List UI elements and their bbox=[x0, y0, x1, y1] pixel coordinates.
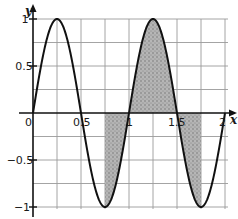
y-tick-neg-0-5: −0.5 bbox=[7, 154, 34, 167]
y-tick-1: 1 bbox=[22, 13, 29, 26]
x-tick-2: 2 bbox=[219, 116, 226, 129]
y-tick-0-5: 0.5 bbox=[15, 60, 33, 73]
x-tick-1: 1 bbox=[126, 116, 133, 129]
x-tick-origin: 0 bbox=[25, 116, 32, 129]
y-tick-neg-1: −1 bbox=[14, 201, 30, 214]
x-tick-0-5: 0.5 bbox=[73, 116, 91, 129]
x-axis-label: x bbox=[229, 113, 238, 127]
axes bbox=[19, 4, 237, 217]
sine-chart: y x 0 0.5 1 1.5 2 1 0.5 −0.5 −1 bbox=[0, 0, 238, 219]
x-tick-1-5: 1.5 bbox=[168, 116, 186, 129]
